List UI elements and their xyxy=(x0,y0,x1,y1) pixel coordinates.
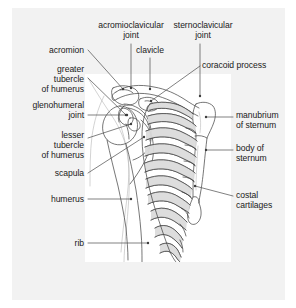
label-acromion: acromion xyxy=(28,45,84,55)
endpoint-coracoid-process xyxy=(150,100,152,102)
label-acromioclavicular-joint: acromioclavicular joint xyxy=(88,20,174,40)
endpoint-lesser-tubercle xyxy=(130,123,132,125)
label-costal-cartilages: costal cartilages xyxy=(236,190,290,210)
leader-lesser-tubercle xyxy=(88,124,131,138)
endpoint-acromioclavicular-joint xyxy=(130,87,132,89)
endpoint-rib xyxy=(147,242,149,244)
endpoint-body-of-sternum xyxy=(205,149,207,151)
body-contour xyxy=(88,78,129,262)
leader-coracoid-process xyxy=(151,66,200,101)
label-coracoid-process: coracoid process xyxy=(202,60,288,70)
rib-shading xyxy=(145,102,197,262)
leader-greater-tubercle xyxy=(88,78,126,115)
label-manubrium-of-sternum: manubrium of sternum xyxy=(236,110,294,130)
label-clavicle: clavicle xyxy=(130,45,170,55)
skeleton-drawing xyxy=(88,78,215,262)
label-lesser-tubercle-of-humerus: lesser tubercle of humerus xyxy=(18,130,84,161)
leader-scapula xyxy=(88,137,144,173)
endpoint-glenohumeral-joint xyxy=(126,114,128,116)
endpoint-humerus xyxy=(130,198,132,200)
endpoint-costal-cartilages xyxy=(194,185,196,187)
label-sternoclavicular-joint: sternoclavicular joint xyxy=(163,20,243,40)
sternum-bone xyxy=(188,102,216,224)
endpoint-clavicle xyxy=(149,88,151,90)
label-body-of-sternum: body of sternum xyxy=(236,143,288,163)
label-greater-tubercle-of-humerus: greater tubercle of humerus xyxy=(18,64,84,95)
label-rib: rib xyxy=(58,238,84,248)
endpoint-acromion xyxy=(122,88,124,90)
endpoint-scapula xyxy=(143,136,145,138)
endpoint-sternoclavicular-joint xyxy=(199,95,201,97)
label-humerus: humerus xyxy=(28,194,84,204)
endpoint-manubrium xyxy=(205,116,207,118)
label-glenohumeral-joint: glenohumeral joint xyxy=(12,100,84,120)
anatomy-figure: acromioclavicular joint sternoclavicular… xyxy=(0,0,296,308)
label-scapula: scapula xyxy=(32,168,84,178)
